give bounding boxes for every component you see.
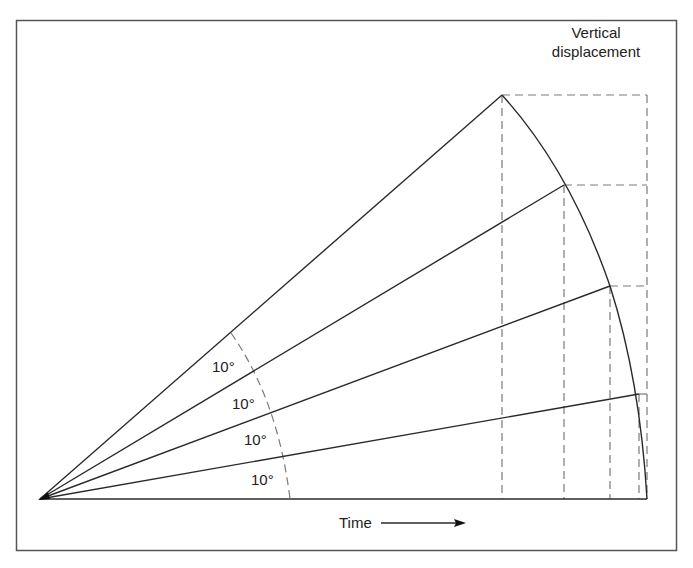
angle-label-40: 10°: [212, 358, 235, 375]
angle-label-10: 10°: [251, 471, 274, 488]
origin-point: [38, 492, 50, 500]
title-vertical: Vertical: [526, 24, 666, 42]
time-arrow: [381, 519, 466, 527]
rays: [40, 95, 647, 499]
angle-label-20: 10°: [244, 431, 267, 448]
ray-40: [40, 95, 502, 499]
ray-10: [40, 394, 639, 499]
ray-30: [40, 185, 564, 499]
ray-20: [40, 286, 610, 499]
outer-arc: [502, 95, 647, 499]
title-displacement: displacement: [526, 43, 666, 61]
angle-label-30: 10°: [232, 395, 255, 412]
displacement-diagram: [0, 0, 693, 568]
projection-lines: [231, 95, 647, 499]
x-axis-label: Time: [339, 514, 372, 531]
